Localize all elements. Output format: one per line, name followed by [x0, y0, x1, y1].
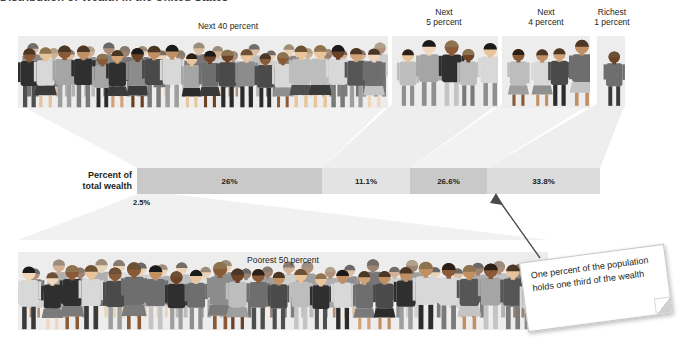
bar-caption-line2: total wealth: [44, 181, 132, 192]
infographic-canvas: Distribution of Wealth in the United Sta…: [0, 0, 683, 346]
bar-caption-line1: Percent of: [44, 170, 132, 181]
group-label-richest1: Richest 1 percent: [573, 8, 651, 27]
bar-segment-next40: 26%: [137, 168, 322, 194]
people-panel-next4: [502, 36, 590, 108]
people-panel-next5: [392, 36, 498, 108]
group-label-next5: Next 5 percent: [405, 8, 483, 27]
bar-caption: Percent of total wealth: [44, 170, 132, 192]
bar-segment-next5: 11.1%: [322, 168, 410, 194]
callout-text: One percent of the population holds one …: [530, 253, 658, 295]
crowd-illustration: [18, 36, 388, 108]
people-panel-next40: [18, 36, 388, 108]
bar-segment-richest1: 33.8%: [487, 168, 600, 194]
wedge-connector-bottom: [0, 194, 683, 252]
figure-title: Distribution of Wealth in the United Sta…: [0, 0, 683, 5]
page-fold-icon: [654, 296, 672, 314]
crowd-illustration: [597, 36, 625, 108]
group-label-poorest50: Poorest 50 percent: [198, 255, 368, 265]
group-label-next40: Next 40 percent: [168, 22, 288, 32]
bar-segment-poorest50-label: 2.5%: [133, 198, 150, 207]
people-panel-richest1: [597, 36, 625, 108]
crowd-illustration: [392, 36, 498, 108]
bar-segment-next4: 26.6%: [410, 168, 487, 194]
wedge-connectors: [0, 104, 683, 170]
crowd-illustration: [502, 36, 590, 108]
wealth-bar: 26% 11.1% 26.6% 33.8%: [137, 168, 600, 194]
